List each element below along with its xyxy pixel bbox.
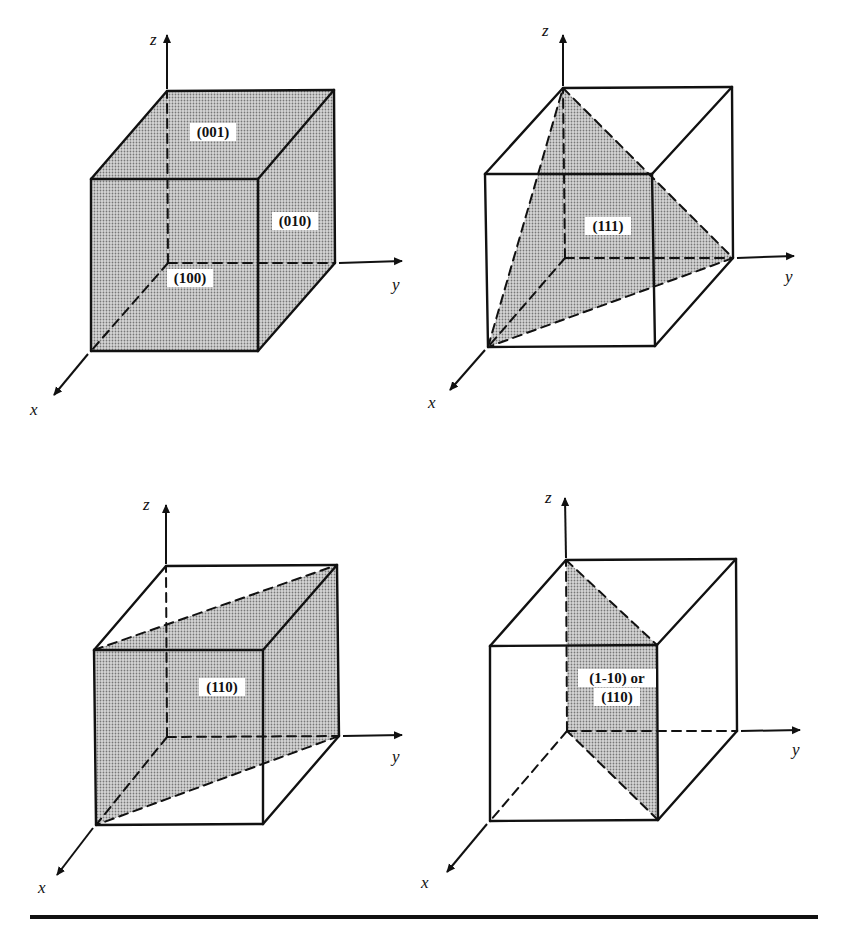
panel-111-plane: zyx(111): [427, 21, 794, 412]
crystal-planes-figure: zyx(001)(010)(100) zyx(111) zyx(110) zyx…: [0, 0, 842, 926]
cube-edge: [490, 560, 566, 646]
miller-index-label: (010): [279, 213, 312, 230]
miller-index-label: (100): [174, 270, 207, 287]
miller-index-label: (110): [206, 679, 238, 696]
z-axis-label: z: [544, 488, 552, 507]
y-axis-arrow-icon: [737, 256, 794, 258]
miller-index-label: (001): [197, 124, 230, 141]
z-axis-label: z: [142, 495, 150, 514]
plane-100: [91, 179, 258, 351]
cube-edge: [488, 346, 655, 347]
cube-edge: [563, 87, 732, 88]
cube-edge: [490, 645, 657, 646]
miller-index-label: (111): [593, 218, 624, 235]
x-axis-label: x: [37, 878, 46, 897]
cube-edge: [652, 87, 732, 174]
cube-edge: [490, 820, 658, 821]
cube-edge: [485, 174, 488, 347]
cube-edge: [566, 559, 736, 560]
cube-edge: [657, 559, 736, 645]
x-axis-arrow-icon: [57, 828, 93, 875]
y-axis-arrow-icon: [339, 261, 402, 263]
x-axis-label: x: [29, 400, 38, 419]
hidden-cube-edge: [490, 731, 567, 821]
y-axis-label: y: [790, 740, 800, 759]
cube-edge: [96, 824, 263, 825]
panel-cube-faces: zyx(001)(010)(100): [29, 30, 402, 419]
cube-edge: [732, 87, 733, 258]
z-axis-label: z: [541, 21, 549, 40]
cube-edge: [334, 90, 335, 263]
miller-index-label: (110): [601, 689, 633, 706]
cube-edge: [657, 645, 658, 820]
y-axis-label: y: [390, 275, 400, 294]
y-axis-label: y: [390, 747, 400, 766]
bottom-rule-divider: [30, 915, 818, 919]
y-axis-label: y: [783, 267, 793, 286]
z-axis-label: z: [149, 30, 157, 49]
y-axis-arrow-icon: [343, 735, 402, 736]
miller-index-label: (1-10) or: [589, 670, 645, 687]
z-axis-arrow-icon: [565, 498, 566, 558]
panel-110-plane: zyx(110): [37, 495, 402, 897]
y-axis-arrow-icon: [741, 730, 800, 731]
cube-edge: [736, 559, 737, 731]
cube-edge: [658, 731, 737, 820]
x-axis-arrow-icon: [447, 824, 487, 872]
panel-1-10-plane: zyx(1-10) or(110): [420, 488, 800, 892]
cube-edge: [166, 565, 337, 566]
x-axis-label: x: [420, 873, 429, 892]
x-axis-arrow-icon: [450, 350, 485, 390]
x-axis-arrow-icon: [54, 354, 88, 395]
x-axis-label: x: [427, 393, 436, 412]
cube-edge: [167, 90, 334, 91]
